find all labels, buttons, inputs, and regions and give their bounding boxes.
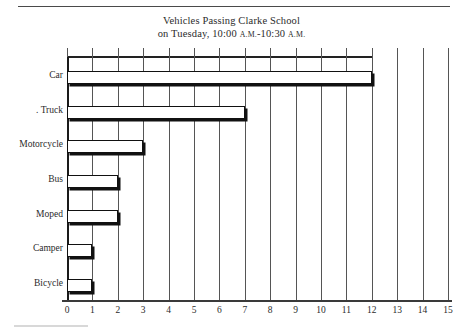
gridline-5: [194, 57, 195, 300]
x-tick-label-1: 1: [90, 305, 95, 315]
y-label-bus: Bus: [1, 174, 63, 184]
y-label-truck: . Truck: [1, 105, 63, 115]
gridline-11: [346, 57, 347, 300]
x-tick-label-5: 5: [192, 305, 197, 315]
bar-motorcycle: [67, 140, 143, 153]
x-tick-label-4: 4: [166, 305, 171, 315]
gridline-2: [118, 57, 119, 300]
x-tick-label-6: 6: [217, 305, 222, 315]
tick-top-11: [346, 48, 347, 57]
x-axis-line: [62, 300, 452, 302]
chart-subtitle: on Tuesday, 10:00 A.M.-10:30 A.M.: [0, 27, 463, 41]
y-label-moped: Moped: [1, 209, 63, 219]
gridline-7: [245, 57, 246, 300]
gridline-13: [397, 57, 398, 300]
y-label-motorcycle: Motorcycle: [1, 139, 63, 149]
gridline-9: [296, 57, 297, 300]
tick-top-8: [270, 48, 271, 57]
tick-top-3: [143, 48, 144, 57]
tick-top-5: [194, 48, 195, 57]
x-tick-label-11: 11: [342, 305, 351, 315]
plot-area: [67, 57, 448, 300]
scan-artifact: [14, 325, 88, 327]
bar-camper: [67, 244, 92, 257]
bar-moped: [67, 210, 118, 223]
gridline-8: [270, 57, 271, 300]
tick-top-10: [321, 48, 322, 57]
x-tick-label-7: 7: [242, 305, 247, 315]
x-tick-label-2: 2: [115, 305, 120, 315]
bar-bicycle: [67, 279, 92, 292]
tick-top-14: [423, 48, 424, 57]
tick-top-4: [169, 48, 170, 57]
y-label-camper: Camper: [1, 243, 63, 253]
tick-top-13: [397, 48, 398, 57]
tick-top-12: [372, 48, 373, 57]
gridline-3: [143, 57, 144, 300]
x-tick-label-13: 13: [392, 305, 402, 315]
tick-top-7: [245, 48, 246, 57]
bar-bus: [67, 175, 118, 188]
tick-top-6: [219, 48, 220, 57]
x-tick-label-3: 3: [141, 305, 146, 315]
x-tick-label-14: 14: [418, 305, 428, 315]
subtitle-dash: -10:30: [257, 28, 288, 39]
gridline-12: [372, 57, 373, 300]
gridline-10: [321, 57, 322, 300]
x-tick-label-9: 9: [293, 305, 298, 315]
x-axis-tick-labels: 0123456789101112131415: [0, 305, 463, 323]
y-axis-category-labels: Car. TruckMotorcycleBusMopedCamperBicycl…: [0, 0, 63, 332]
x-tick-label-12: 12: [367, 305, 377, 315]
gridline-15: [448, 57, 449, 300]
chart-title-block: Vehicles Passing Clarke School on Tuesda…: [0, 14, 463, 41]
tick-top-2: [118, 48, 119, 57]
tick-top-9: [296, 48, 297, 57]
tick-top-15: [448, 48, 449, 57]
x-tick-label-8: 8: [268, 305, 273, 315]
subtitle-am-end: A.M.: [288, 30, 305, 39]
x-tick-label-15: 15: [443, 305, 453, 315]
gridline-6: [219, 57, 220, 300]
bar-truck: [67, 106, 245, 119]
bar-car: [67, 71, 372, 84]
x-tick-label-0: 0: [65, 305, 70, 315]
y-label-bicycle: Bicycle: [1, 278, 63, 288]
subtitle-am-start: A.M.: [240, 30, 257, 39]
y-label-car: Car: [1, 70, 63, 80]
gridline-14: [423, 57, 424, 300]
tick-top-1: [92, 48, 93, 57]
page-top-rule: [18, 6, 450, 7]
subtitle-lead: on Tuesday, 10:00: [158, 28, 240, 39]
x-tick-label-10: 10: [316, 305, 326, 315]
page-title: Vehicles Passing Clarke School: [0, 14, 463, 27]
tick-top-0: [67, 48, 68, 57]
gridline-4: [169, 57, 170, 300]
